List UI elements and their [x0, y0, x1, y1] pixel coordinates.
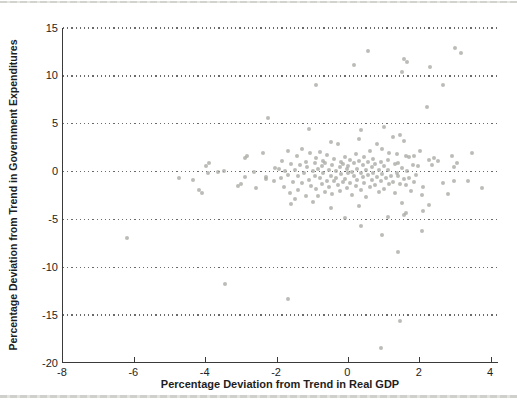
data-point [427, 203, 431, 207]
data-point [343, 155, 347, 159]
data-point [366, 173, 370, 177]
data-point [411, 163, 415, 167]
data-point [357, 137, 361, 141]
data-point [466, 179, 470, 183]
x-tick-label-2: 2 [416, 366, 422, 378]
data-point [304, 194, 308, 198]
data-point [380, 233, 384, 237]
data-point [286, 173, 290, 177]
data-point [307, 178, 311, 182]
data-point [379, 179, 383, 183]
data-point [386, 215, 390, 219]
data-point [395, 152, 399, 156]
data-point [407, 155, 411, 159]
data-point [396, 250, 400, 254]
data-point [421, 209, 425, 213]
data-point [314, 187, 318, 191]
data-point [243, 175, 247, 179]
gridline-y--5 [63, 219, 498, 221]
data-point [436, 159, 440, 163]
data-point [361, 163, 365, 167]
data-point [343, 177, 347, 181]
data-point [470, 151, 474, 155]
data-point [359, 224, 363, 228]
data-point [354, 152, 358, 156]
data-point [272, 179, 276, 183]
gridline-y--15 [63, 314, 498, 316]
x-axis-title: Percentage Deviation from Trend in Real … [62, 378, 498, 390]
x-tick--2 [277, 357, 278, 362]
data-point [370, 178, 374, 182]
data-point [200, 191, 204, 195]
data-point [295, 154, 299, 158]
gridline-y-5 [63, 123, 498, 125]
data-point [277, 167, 281, 171]
data-point [371, 171, 375, 175]
data-point [377, 190, 381, 194]
x-tick-label--2: -2 [271, 366, 281, 378]
data-point [430, 163, 434, 167]
data-point [373, 183, 377, 187]
y-tick-label--15: -15 [20, 309, 58, 322]
data-point [382, 187, 386, 191]
x-tick--6 [134, 357, 135, 362]
data-point [191, 178, 195, 182]
data-point [355, 178, 359, 182]
data-point [329, 174, 333, 178]
data-point [329, 140, 333, 144]
data-point [329, 206, 333, 210]
data-point [289, 202, 293, 206]
data-point [407, 176, 411, 180]
data-point [396, 161, 400, 165]
data-point [279, 176, 283, 180]
x-tick-label--6: -6 [128, 366, 138, 378]
page-bottom-rule [0, 395, 517, 398]
data-point [400, 70, 404, 74]
data-point [345, 186, 349, 190]
data-point [296, 188, 300, 192]
data-point [366, 160, 370, 164]
data-point [206, 171, 210, 175]
data-point [223, 282, 227, 286]
data-point [368, 185, 372, 189]
data-point [404, 183, 408, 187]
data-point [293, 168, 297, 172]
data-point [362, 155, 366, 159]
data-point [391, 135, 395, 139]
data-point [307, 127, 311, 131]
data-point [330, 163, 334, 167]
data-point [364, 195, 368, 199]
data-point [359, 171, 363, 175]
data-point [318, 150, 322, 154]
data-point [402, 177, 406, 181]
data-point [384, 176, 388, 180]
data-point [245, 154, 249, 158]
data-point [357, 204, 361, 208]
data-point [300, 181, 304, 185]
data-point [291, 180, 295, 184]
data-point [375, 142, 379, 146]
data-point [280, 159, 284, 163]
data-point [396, 174, 400, 178]
x-tick-label-0: 0 [344, 366, 350, 378]
data-point [359, 128, 363, 132]
data-point [305, 165, 309, 169]
data-point [286, 149, 290, 153]
data-point [298, 163, 302, 167]
data-point [325, 179, 329, 183]
data-point [289, 162, 293, 166]
data-point [302, 171, 306, 175]
data-point [304, 160, 308, 164]
data-point [222, 169, 226, 173]
data-point [414, 173, 418, 177]
data-point [320, 182, 324, 186]
data-point [450, 154, 454, 158]
data-point [452, 165, 456, 169]
data-point [293, 197, 297, 201]
data-point [400, 166, 404, 170]
data-point [261, 151, 265, 155]
y-tick-label--5: -5 [20, 213, 58, 226]
scatter-chart-figure: Percentage Deviation from Trend in Gover… [0, 0, 517, 403]
data-point [459, 51, 463, 55]
x-tick-4 [491, 357, 492, 362]
